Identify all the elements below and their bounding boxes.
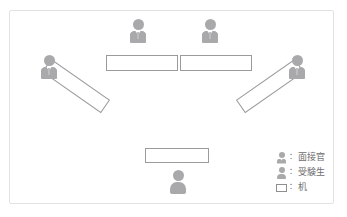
legend: ： 面接官 ： 受験生 ： 机: [276, 150, 332, 195]
bottom-desk: [145, 148, 209, 163]
top-left-desk: [106, 55, 178, 71]
examinee-bottom: [167, 170, 189, 196]
person-head: [44, 55, 55, 66]
legend-item-desk: ： 机: [276, 180, 332, 194]
top-right-desk: [180, 55, 252, 71]
interviewer-left: [38, 55, 60, 81]
legend-label-interviewer: 面接官: [298, 153, 325, 162]
desk-rectangle-icon: [276, 181, 287, 194]
interviewer-right: [286, 55, 308, 81]
interviewer-top-right: [199, 19, 221, 45]
person-head: [292, 55, 303, 66]
person-tie: [209, 32, 212, 39]
person-tie: [48, 68, 51, 75]
interviewer-figure-icon: [276, 151, 287, 164]
legend-separator: ：: [289, 183, 297, 191]
examinee-figure-icon: [276, 166, 287, 179]
legend-separator: ：: [289, 153, 297, 161]
legend-label-desk: 机: [298, 183, 307, 192]
legend-separator: ：: [289, 168, 297, 176]
person-head: [205, 19, 216, 30]
person-body: [170, 182, 186, 194]
person-head: [133, 19, 144, 30]
person-head: [173, 170, 184, 181]
interview-room-diagram: ： 面接官 ： 受験生 ： 机: [0, 0, 347, 217]
person-tie: [296, 68, 299, 75]
legend-item-interviewer: ： 面接官: [276, 150, 332, 164]
legend-item-examinee: ： 受験生: [276, 165, 332, 179]
legend-label-examinee: 受験生: [298, 168, 325, 177]
interviewer-top-left: [127, 19, 149, 45]
person-tie: [137, 32, 140, 39]
